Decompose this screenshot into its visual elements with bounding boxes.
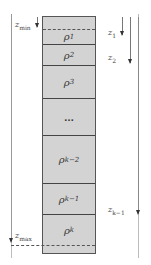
z1-arrow-icon <box>122 17 123 35</box>
z2-label: z2 <box>108 53 116 64</box>
layer-rho-k: ρk <box>43 215 95 253</box>
zmax-arrow-icon <box>11 14 12 242</box>
label-subscript: max <box>19 235 32 242</box>
z1-label: z1 <box>108 28 116 39</box>
layer-rho-k-2: ρk−2 <box>43 136 95 184</box>
label-subscript: k−1 <box>112 209 124 216</box>
layer-subscript: 3 <box>70 78 74 86</box>
zmin-label: zmin <box>15 20 31 31</box>
z2-arrow-icon <box>130 17 131 63</box>
layer-rho-3: ρ3 <box>43 66 95 99</box>
layer-subscript: 1 <box>70 33 74 41</box>
layer-subscript: k−1 <box>65 195 80 203</box>
zmax-label: zmax <box>15 231 32 242</box>
layer-subscript: k−2 <box>65 156 80 164</box>
layer-rho-k-1: ρk−1 <box>43 184 95 215</box>
label-subscript: 1 <box>112 32 116 39</box>
layer-rho-2: ρ2 <box>43 45 95 66</box>
layer-subscript: 2 <box>70 51 74 59</box>
ellipsis: … <box>64 112 74 123</box>
zk-1-arrow-icon <box>138 17 139 214</box>
label-subscript: 2 <box>112 57 116 64</box>
layer-ellipsis: … <box>43 99 95 136</box>
zmin-arrow-icon <box>37 17 38 27</box>
zmax-dashed-line <box>11 245 95 246</box>
layer-rho-1: ρ1 <box>43 17 95 45</box>
zk-1-label: zk−1 <box>108 205 125 216</box>
layer-subscript: k <box>70 226 74 234</box>
label-subscript: min <box>19 24 30 31</box>
zmin-dashed-line <box>43 29 95 30</box>
layered-column: ρ1 ρ2 ρ3 … ρk−2 ρk−1 ρk <box>42 16 96 254</box>
